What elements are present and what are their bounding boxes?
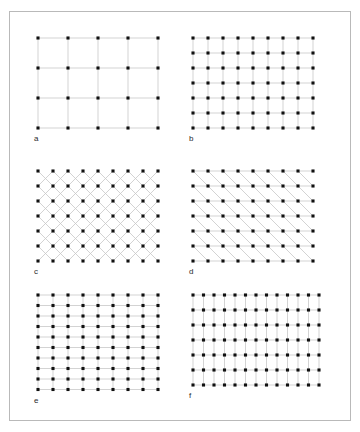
lattice-point [311, 81, 314, 84]
lattice-point [221, 244, 224, 247]
lattice-point [254, 353, 257, 356]
lattice-point [126, 244, 129, 247]
lattice-point [254, 308, 257, 311]
lattice-point [141, 214, 144, 217]
panel-label-b: b [189, 134, 193, 143]
lattice-diagram-f [189, 291, 323, 389]
lattice-point [66, 314, 69, 317]
lattice-point [206, 184, 209, 187]
lattice-point [223, 383, 226, 386]
lattice-point [141, 293, 144, 296]
lattice-point [296, 353, 299, 356]
lattice-point [266, 51, 269, 54]
lattice-point [96, 96, 99, 99]
lattice-point [206, 214, 209, 217]
lattice-point [96, 356, 99, 359]
lattice-point [96, 293, 99, 296]
lattice-point [141, 367, 144, 370]
lattice-point [251, 184, 254, 187]
lattice-point [244, 323, 247, 326]
lattice-point [206, 36, 209, 39]
lattice-point [111, 214, 114, 217]
lattice-point [36, 169, 39, 172]
lattice-point [66, 377, 69, 380]
lattice-point [111, 169, 114, 172]
lattice-point [81, 184, 84, 187]
lattice-point [221, 36, 224, 39]
lattice-point [251, 36, 254, 39]
lattice-point [281, 169, 284, 172]
lattice-point [126, 169, 129, 172]
lattice-point [66, 367, 69, 370]
lattice-point [221, 81, 224, 84]
lattice-point [81, 388, 84, 391]
lattice-point [126, 367, 129, 370]
lattice-point [156, 96, 159, 99]
lattice-point [191, 51, 194, 54]
lattice-points-c [36, 169, 159, 262]
lattice-point [36, 184, 39, 187]
lattice-point [286, 353, 289, 356]
lattice-point [66, 325, 69, 328]
lattice-point [286, 323, 289, 326]
lattice-point [66, 184, 69, 187]
lattice-point [111, 377, 114, 380]
lattice-point [126, 335, 129, 338]
lattice-point [236, 169, 239, 172]
lattice-point [244, 368, 247, 371]
lattice-point [191, 81, 194, 84]
lattice-point [221, 51, 224, 54]
lattice-point [281, 66, 284, 69]
lattice-point [212, 338, 215, 341]
lattice-point [296, 244, 299, 247]
lattice-point [81, 314, 84, 317]
lattice-point [317, 338, 320, 341]
lattice-point [266, 81, 269, 84]
lattice-point [51, 325, 54, 328]
lattice-point [111, 325, 114, 328]
lattice-point [251, 214, 254, 217]
lattice-point [51, 244, 54, 247]
lattice-point [51, 314, 54, 317]
lattice-point [111, 367, 114, 370]
lattice-point [126, 126, 129, 129]
lattice-point [254, 293, 257, 296]
lattice-point [311, 51, 314, 54]
lattice-point [266, 36, 269, 39]
lattice-point [311, 66, 314, 69]
lattice-point [36, 388, 39, 391]
lattice-point [81, 259, 84, 262]
lattice-point [111, 244, 114, 247]
lattice-point [51, 356, 54, 359]
lattice-point [126, 356, 129, 359]
lattice-point [311, 229, 314, 232]
lattice-point [81, 199, 84, 202]
lattice-point [223, 368, 226, 371]
lattice-point [156, 244, 159, 247]
lattice-point [191, 229, 194, 232]
lattice-point [96, 259, 99, 262]
lattice-point [96, 199, 99, 202]
lattice-point [191, 126, 194, 129]
lattice-point [191, 36, 194, 39]
lattice-point [236, 51, 239, 54]
lattice-point [221, 96, 224, 99]
lattice-point [156, 293, 159, 296]
lattice-point [141, 199, 144, 202]
lattice-point [191, 184, 194, 187]
lattice-point [251, 169, 254, 172]
lattice-point [191, 66, 194, 69]
lattice-point [244, 293, 247, 296]
lattice-point [66, 346, 69, 349]
lattice-point [296, 51, 299, 54]
lattice-point [296, 293, 299, 296]
lattice-point [296, 169, 299, 172]
lattice-point [111, 259, 114, 262]
lattice-point [223, 308, 226, 311]
lattice-point [96, 335, 99, 338]
lattice-point [191, 259, 194, 262]
figure-page: abcdef [0, 0, 360, 432]
lattice-point [296, 126, 299, 129]
lattice-point [236, 214, 239, 217]
lattice-point [141, 335, 144, 338]
